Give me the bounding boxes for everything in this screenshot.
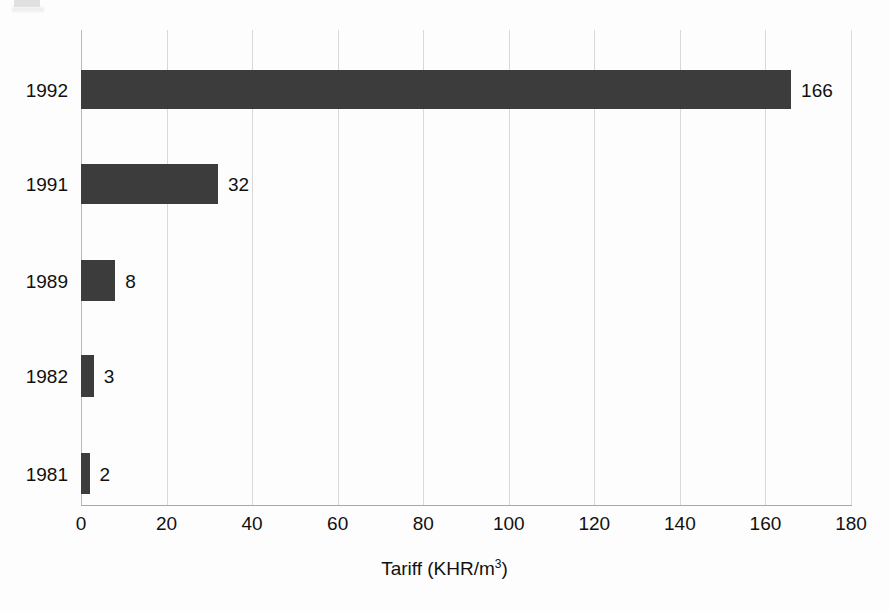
x-tick-label-60: 60 [327,514,348,533]
bar-1982[interactable] [81,355,94,397]
bar-value-label-1981: 2 [100,465,111,484]
category-label-1982: 1982 [0,367,68,386]
bar-1989[interactable] [81,260,115,301]
category-label-1989: 1989 [0,272,68,291]
x-tick-label-140: 140 [664,514,696,533]
x-tick-label-80: 80 [413,514,434,533]
category-label-text: 1991 [0,175,68,194]
bar-chart: 16632832 19921991198919821981 0204060801… [0,0,889,612]
x-tick-label-40: 40 [242,514,263,533]
x-axis-line [81,505,852,506]
category-label-text: 1992 [0,81,68,100]
bar-1981[interactable] [81,453,90,494]
bar-value-label-1989: 8 [125,272,136,291]
bar-1992[interactable] [81,70,791,109]
gridline-180 [851,30,852,505]
x-axis-title-prefix: Tariff (KHR/m [381,558,495,579]
x-axis-title-superscript: 3 [495,557,502,571]
x-axis-title-suffix: ) [502,558,508,579]
category-label-text: 1981 [0,465,68,484]
x-tick-label-160: 160 [750,514,782,533]
x-axis-title: Tariff (KHR/m3) [0,558,889,580]
x-tick-label-20: 20 [156,514,177,533]
scan-artifact-icon [14,0,40,7]
x-tick-label-120: 120 [578,514,610,533]
category-label-1981: 1981 [0,465,68,484]
bar-value-label-1991: 32 [228,175,249,194]
bar-1991[interactable] [81,164,218,204]
category-label-text: 1982 [0,367,68,386]
category-label-1992: 1992 [0,81,68,100]
x-tick-label-100: 100 [493,514,525,533]
bar-value-label-1992: 166 [801,81,833,100]
category-label-1991: 1991 [0,175,68,194]
category-label-text: 1989 [0,272,68,291]
x-tick-label-0: 0 [76,514,87,533]
scan-artifact-smudge-icon [12,7,44,12]
x-tick-label-180: 180 [835,514,867,533]
bar-value-label-1982: 3 [104,367,115,386]
